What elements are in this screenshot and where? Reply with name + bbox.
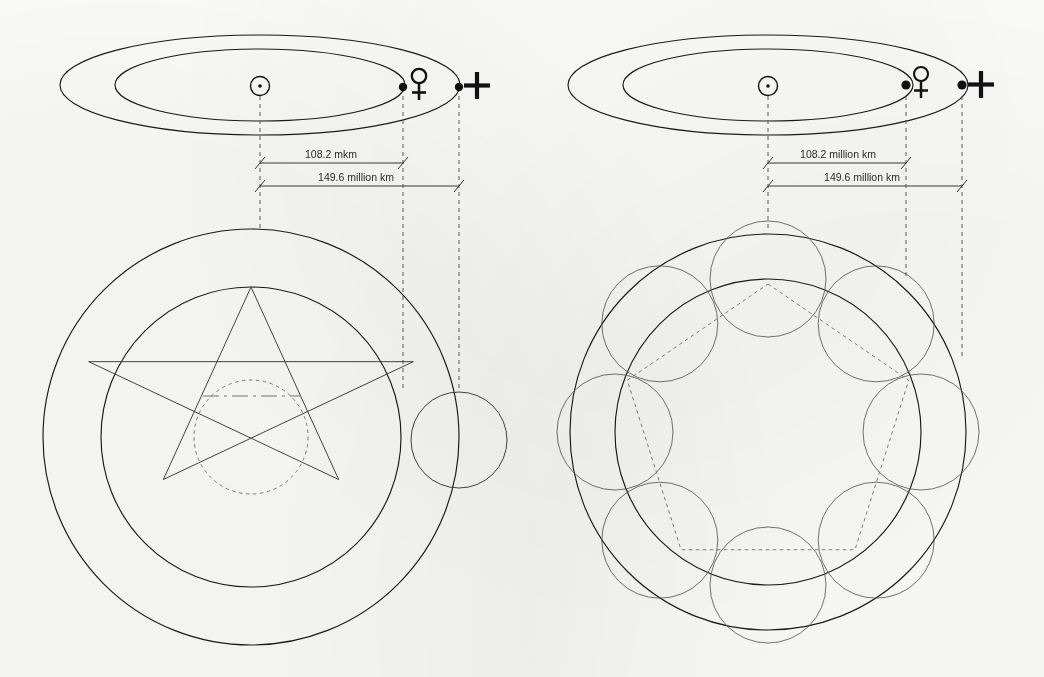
dimension-venus-left-label: 108.2 mkm: [305, 148, 357, 160]
page-background: [0, 0, 1044, 677]
earth-position-dot: [455, 83, 463, 91]
earth-position-dot: [957, 80, 966, 89]
venus-position-dot: [399, 83, 407, 91]
dimension-earth-left-label: 149.6 million km: [318, 171, 394, 183]
dimension-venus-right-label: 108.2 million km: [800, 148, 876, 160]
venus-position-dot: [901, 80, 910, 89]
diagram-sheet: .ln{fill:none;stroke:#1a1a1a;stroke-widt…: [0, 0, 1044, 677]
diagram-canvas: .ln{fill:none;stroke:#1a1a1a;stroke-widt…: [0, 0, 1044, 677]
dimension-earth-right-label: 149.6 million km: [824, 171, 900, 183]
